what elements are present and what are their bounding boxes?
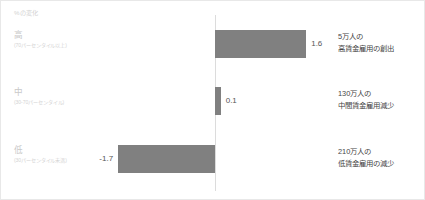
bar-high [215,30,306,58]
bar-low [118,145,215,173]
bar-middle [215,87,221,115]
value-label-middle: 0.1 [226,87,237,115]
chart-container: %の変化 高 (70パーセンタイル以上) 中 (30-70パーセンタイル) 低 … [0,0,425,200]
value-label-low: -1.7 [99,145,113,173]
annotation-low-line1: 210万人の [338,146,425,158]
annotation-low: 210万人の 低賃金雇用の減少 [338,146,425,169]
annotation-high-line2: 高賃金雇用の創出 [338,43,425,55]
annotation-middle-line2: 中間賃金雇用減少 [338,100,425,112]
annotation-low-line2: 低賃金雇用の減少 [338,158,425,170]
annotation-high: 5万人の 高賃金雇用の創出 [338,31,425,54]
annotation-high-line1: 5万人の [338,31,425,43]
value-label-high: 1.6 [311,30,322,58]
annotation-middle-line1: 130万人の [338,88,425,100]
annotation-middle: 130万人の 中間賃金雇用減少 [338,88,425,111]
